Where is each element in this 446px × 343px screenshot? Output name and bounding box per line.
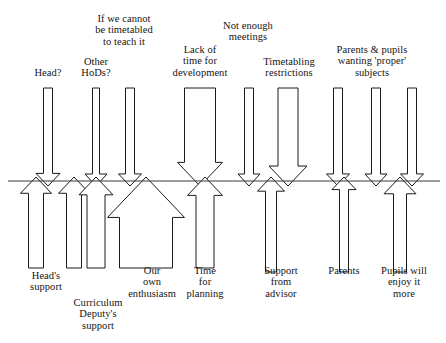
restraining-force-arrow-parents-pupils-proper-subjects-c xyxy=(401,88,424,186)
driving-force-arrow-pupils-will-enjoy-it-more xyxy=(384,177,416,272)
restraining-force-arrow-head xyxy=(36,88,60,186)
restraining-force-label-head: Head? xyxy=(19,67,77,78)
restraining-force-arrow-timetabling-restrictions xyxy=(269,88,307,186)
restraining-force-label-lack-of-time-for-development: Lack of time for development xyxy=(166,44,234,78)
arrows-layer xyxy=(21,88,424,272)
driving-force-arrow-parents xyxy=(332,177,356,272)
driving-force-arrow-support-from-advisor xyxy=(258,177,285,272)
restraining-force-label-timetabling-restrictions: Timetabling restrictions xyxy=(253,56,325,79)
driving-force-label-support-from-advisor: Support from advisor xyxy=(251,265,311,299)
restraining-force-label-parents-pupils-proper-subjects-a: Parents & pupils wanting 'proper' subjec… xyxy=(318,44,426,78)
driving-force-arrow-heads-support xyxy=(21,177,52,268)
restraining-force-arrow-if-we-cannot-be-timetabled xyxy=(119,88,142,186)
restraining-force-arrow-not-enough-meetings xyxy=(238,88,260,186)
restraining-force-label-if-we-cannot-be-timetabled: If we cannot be timetabled to teach it xyxy=(85,13,163,47)
restraining-force-arrow-parents-pupils-proper-subjects-b xyxy=(365,88,387,186)
driving-force-label-heads-support: Head's support xyxy=(18,270,74,293)
restraining-force-arrow-lack-of-time-for-development xyxy=(178,88,223,186)
restraining-force-arrow-parents-pupils-proper-subjects-a xyxy=(327,88,350,186)
driving-force-label-curriculum-deputys-support: Curriculum Deputy's support xyxy=(60,297,136,331)
driving-force-arrow-curriculum-deputys-support xyxy=(79,177,113,268)
driving-force-label-pupils-will-enjoy-it-more: Pupils will enjoy it more xyxy=(372,265,436,299)
driving-force-label-time-for-planning: Time for planning xyxy=(177,265,233,299)
driving-force-label-parents: Parents xyxy=(317,265,371,276)
driving-force-arrow-time-for-planning xyxy=(188,177,223,268)
restraining-force-arrow-other-hods xyxy=(85,88,107,186)
restraining-force-label-other-hods: Other HoDs? xyxy=(70,56,122,79)
driving-force-arrow-our-own-enthusiasm xyxy=(108,177,185,268)
force-field-diagram: Head?Other HoDs?If we cannot be timetabl… xyxy=(0,0,446,343)
restraining-force-label-not-enough-meetings: Not enough meetings xyxy=(208,20,288,43)
